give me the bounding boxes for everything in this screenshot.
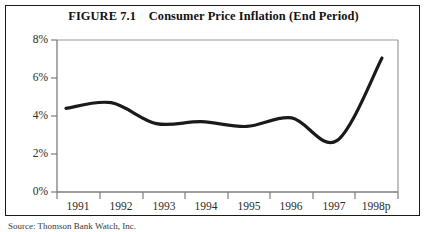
- x-axis-tick-label: 1995: [225, 200, 273, 212]
- x-axis-tick-label: 1992: [97, 200, 145, 212]
- source-note: Source: Thomson Bank Watch, Inc.: [8, 221, 136, 232]
- y-axis-tick-label: 6%: [18, 71, 48, 83]
- y-axis-tick-label: 2%: [18, 147, 48, 159]
- x-axis-tick-label: 1994: [182, 200, 230, 212]
- inflation-series-line: [66, 58, 382, 143]
- y-axis-tick-label: 0%: [18, 185, 48, 197]
- line-chart: [0, 0, 427, 232]
- x-axis-tick-label: 1991: [54, 200, 102, 212]
- x-axis-tick-label: 1996: [267, 200, 315, 212]
- x-axis-tick-label: 1997: [310, 200, 358, 212]
- y-axis-tick-label: 4%: [18, 109, 48, 121]
- figure-page: FIGURE 7.1 Consumer Price Inflation (End…: [0, 0, 427, 232]
- x-axis-tick-label: 1998p: [352, 200, 400, 212]
- y-axis-tick-label: 8%: [18, 33, 48, 45]
- x-axis-tick-label: 1993: [140, 200, 188, 212]
